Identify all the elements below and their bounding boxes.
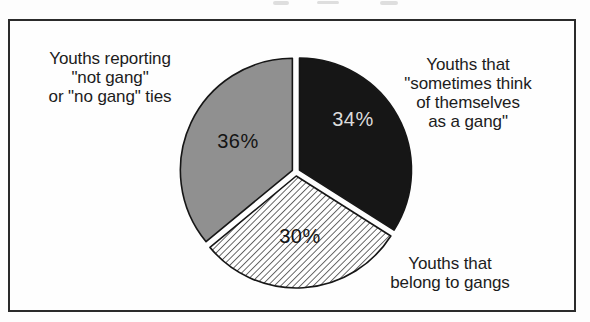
annotation-line: belong to gangs: [360, 273, 540, 292]
pie-value-label-hatch-slice: 30%: [279, 225, 321, 248]
annotation-line: as a gang": [378, 112, 558, 131]
annotation-line: "sometimes think: [378, 74, 558, 93]
figure: Youths reporting "not gang" or "no gang"…: [0, 0, 590, 322]
annotation-not-gang-ties: Youths reporting "not gang" or "no gang"…: [20, 49, 200, 106]
pie-value-label-gray-slice: 36%: [217, 130, 259, 153]
annotation-line: Youths that: [378, 55, 558, 74]
annotation-belong-to-gangs: Youths that belong to gangs: [360, 254, 540, 292]
annotation-line: or "no gang" ties: [20, 87, 200, 106]
annotation-line: Youths that: [360, 254, 540, 273]
annotation-line: Youths reporting: [20, 49, 200, 68]
pie-value-label-black-slice: 34%: [332, 108, 374, 131]
annotation-line: of themselves: [378, 93, 558, 112]
annotation-sometimes-think: Youths that "sometimes think of themselv…: [378, 55, 558, 131]
annotation-line: "not gang": [20, 68, 200, 87]
